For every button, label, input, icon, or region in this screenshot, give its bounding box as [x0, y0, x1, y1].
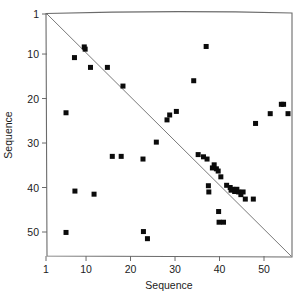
data-point [105, 65, 110, 70]
data-point [165, 117, 170, 122]
data-point [72, 55, 77, 60]
x-tick-label: 30 [169, 263, 181, 275]
y-axis-title: Sequence [2, 111, 14, 158]
data-point [167, 112, 172, 117]
data-point [204, 44, 209, 49]
y-axis-ticks: 11020304050 [27, 8, 47, 238]
data-point [154, 140, 159, 145]
y-tick-label: 30 [27, 137, 39, 149]
data-point [88, 65, 93, 70]
data-point [92, 192, 97, 197]
y-tick-label: 20 [27, 93, 39, 105]
data-point [286, 111, 291, 116]
data-point [221, 220, 226, 225]
scatter-plot-figure: 11020304050 11020304050 Sequence Sequenc… [0, 0, 300, 294]
data-point [241, 189, 246, 194]
y-tick-label: 10 [27, 48, 39, 60]
y-tick-label: 1 [33, 8, 39, 20]
data-point [243, 197, 248, 202]
data-point [174, 109, 179, 114]
y-tick-label: 50 [27, 226, 39, 238]
data-point [72, 189, 77, 194]
data-point [216, 209, 221, 214]
x-tick-label: 50 [258, 263, 270, 275]
data-point [120, 84, 125, 89]
data-point [251, 197, 256, 202]
x-axis-title: Sequence [145, 279, 192, 291]
data-point [145, 236, 150, 241]
data-point [205, 157, 210, 162]
data-point [218, 174, 223, 179]
data-point [110, 154, 115, 159]
data-point [64, 230, 69, 235]
x-tick-label: 20 [125, 263, 137, 275]
x-tick-label: 1 [43, 263, 49, 275]
data-point [281, 102, 286, 107]
x-axis-ticks: 11020304050 [43, 256, 270, 275]
data-point [216, 169, 221, 174]
data-point [140, 157, 145, 162]
data-point [191, 78, 196, 83]
data-point [119, 154, 124, 159]
x-tick-label: 10 [80, 263, 92, 275]
data-point [268, 111, 273, 116]
data-point [83, 47, 88, 52]
data-point [206, 183, 211, 188]
data-point [141, 229, 146, 234]
data-point [217, 220, 222, 225]
x-tick-label: 40 [214, 263, 226, 275]
data-point [196, 152, 201, 157]
data-point [206, 189, 211, 194]
y-tick-label: 40 [27, 182, 39, 194]
data-point [253, 121, 258, 126]
plot-canvas: 11020304050 11020304050 Sequence Sequenc… [0, 0, 300, 294]
data-point [64, 110, 69, 115]
